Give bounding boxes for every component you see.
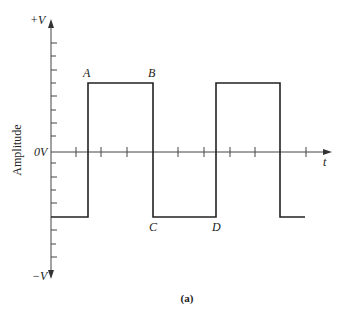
y-axis-down-arrow-icon [48,270,54,279]
figure-caption: (a) [181,292,194,305]
y-axis-up-arrow-icon [48,19,54,28]
square-wave-figure: +V 0V −V Amplitude t A B C D (a) [0,0,339,310]
y-axis-zero-label: 0V [34,145,49,159]
point-label-b: B [148,66,156,80]
x-axis-label: t [323,155,327,169]
point-label-d: D [211,220,221,234]
y-axis-title: Amplitude [10,124,24,175]
y-axis-bottom-label: −V [32,269,49,283]
y-axis-ticks [51,43,57,257]
y-axis-top-label: +V [30,13,47,27]
point-label-a: A [82,66,91,80]
point-label-c: C [149,220,158,234]
